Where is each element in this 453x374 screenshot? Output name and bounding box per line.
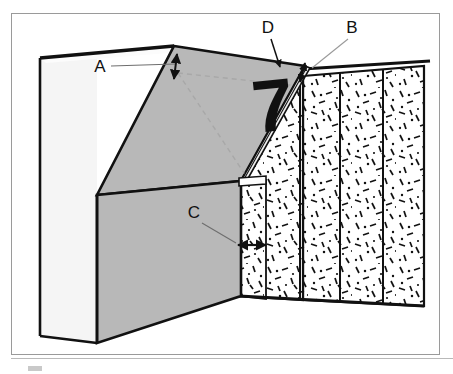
- label-A-text: A: [94, 57, 106, 76]
- leader-line-B: [312, 39, 348, 68]
- left-vertical-face: [40, 53, 97, 343]
- figure-stage: 7 A D B C: [0, 0, 453, 374]
- caption-text-stub: [28, 366, 42, 371]
- numeral-marker: 7: [248, 62, 298, 149]
- caption-divider-rule: [11, 358, 453, 359]
- front-vertical-face: [97, 181, 241, 343]
- label-D-text: D: [262, 18, 274, 37]
- label-C-text: C: [188, 203, 200, 222]
- isometric-excavation-diagram: 7 A D B C: [0, 0, 453, 374]
- slab-foot-notch: [239, 176, 266, 186]
- ground-surface-strip: [40, 46, 180, 63]
- label-B-text: B: [346, 18, 357, 37]
